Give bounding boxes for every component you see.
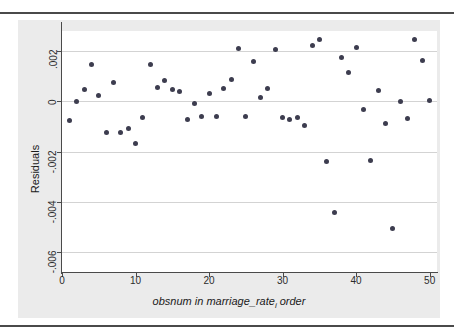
y-tick-label: -.006 [48, 250, 59, 273]
plot-wrapper: .0020-.002-.004-.006 01020304050 [62, 31, 437, 272]
x-axis-title-main: obsnum in marriage_rate [153, 295, 275, 307]
scatter-point [383, 121, 388, 126]
scatter-point [126, 126, 131, 131]
gridline-y [62, 51, 437, 52]
chart-figure: Residuals .0020-.002-.004-.006 010203040… [18, 20, 440, 318]
top-divider-rule [0, 12, 454, 14]
x-tick-label: 10 [116, 275, 156, 286]
scatter-point [324, 159, 329, 164]
scatter-point [155, 85, 160, 90]
y-axis-title: Residuals [28, 20, 42, 318]
x-tick-label: 30 [263, 275, 303, 286]
scatter-point [332, 210, 337, 215]
y-tick-label: .002 [48, 50, 59, 69]
scatter-point [310, 43, 315, 48]
x-axis-title-suffix: order [277, 295, 306, 307]
scatter-point [185, 117, 190, 122]
x-tick-label: 40 [336, 275, 376, 286]
y-axis-title-text: Residuals [29, 145, 41, 193]
y-tick-label: 0 [48, 100, 59, 106]
scatter-point [361, 107, 366, 112]
screenshot-root: Residuals .0020-.002-.004-.006 010203040… [0, 0, 454, 335]
bottom-divider-rule [0, 325, 454, 327]
y-axis-line [61, 22, 62, 274]
scatter-point [273, 47, 278, 52]
scatter-point [398, 99, 403, 104]
scatter-point [192, 101, 197, 106]
scatter-point [376, 88, 381, 93]
scatter-point [420, 58, 425, 63]
scatter-point [221, 86, 226, 91]
x-tick-label: 50 [410, 275, 450, 286]
scatter-point [207, 91, 212, 96]
scatter-point [148, 62, 153, 67]
gridline-y [62, 101, 437, 102]
scatter-point [258, 95, 263, 100]
scatter-point [133, 141, 138, 146]
scatter-point [354, 45, 359, 50]
gridline-y [62, 152, 437, 153]
scatter-point [280, 115, 285, 120]
gridline-y [62, 202, 437, 203]
x-axis-title: obsnum in marriage_ratei order [18, 295, 440, 310]
scatter-point [236, 46, 241, 51]
scatter-point [427, 98, 432, 103]
scatter-point [317, 37, 322, 42]
x-axis-line [61, 272, 438, 273]
scatter-point [67, 118, 72, 123]
gridline-y [62, 252, 437, 253]
scatter-point [170, 87, 175, 92]
y-tick-label: -.002 [48, 150, 59, 173]
scatter-point [74, 99, 79, 104]
x-tick-label: 0 [42, 275, 82, 286]
scatter-point [111, 80, 116, 85]
scatter-point [82, 87, 87, 92]
x-tick-label: 20 [189, 275, 229, 286]
scatter-point [104, 130, 109, 135]
scatter-point [214, 114, 219, 119]
y-tick-label: -.004 [48, 200, 59, 223]
